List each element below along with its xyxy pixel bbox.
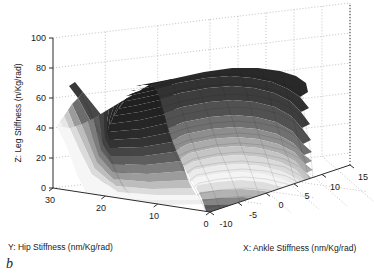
z-tick-0: 0 (41, 183, 46, 193)
y-tick-20: 20 (96, 203, 106, 213)
x-tick-minus5: -5 (249, 210, 257, 220)
z-tick-40: 40 (36, 123, 46, 133)
z-tick-60: 60 (36, 93, 46, 103)
y-tick-10: 10 (149, 211, 159, 221)
z-tick-80: 80 (36, 63, 46, 73)
x-tick-0: 0 (278, 200, 283, 210)
z-tick-20: 20 (36, 153, 46, 163)
y-axis-title: Y: Hip Stiffness (nm/Kg/rad) (8, 242, 113, 252)
x-tick-10: 10 (330, 182, 340, 192)
x-tick-5: 5 (304, 191, 309, 201)
surface-plot-3d: 0 20 40 60 80 100 30 20 10 0 -10 (0, 0, 374, 273)
y-tick-0: 0 (203, 219, 208, 229)
z-axis-title: Z: Leg Stiffness (n/Kg/rad) (13, 63, 23, 162)
x-tick-15: 15 (358, 172, 368, 182)
panel-letter: b (6, 256, 13, 271)
x-tick-minus10: -10 (219, 219, 232, 229)
y-tick-30: 30 (45, 195, 55, 205)
figure-panel-b: 0 20 40 60 80 100 30 20 10 0 -10 (0, 0, 374, 273)
x-axis-title: X: Ankle Stiffness (nm/Kg/rad) (243, 243, 356, 253)
z-tick-100: 100 (31, 33, 46, 43)
